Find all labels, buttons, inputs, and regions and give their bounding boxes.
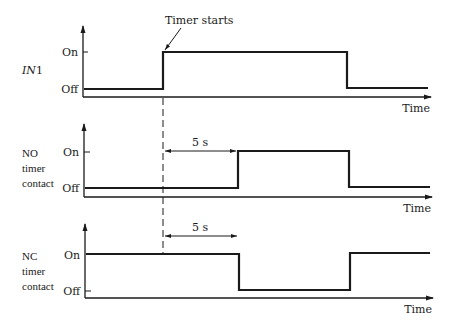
on-label: On (62, 46, 78, 59)
off-label: Off (61, 83, 79, 96)
panel-no-contact: On Off NO timer contact Time 5 s (22, 124, 432, 215)
panel-nc-contact: On Off NC timer contact Time 5 s (22, 221, 433, 316)
time-label: Time (404, 303, 432, 316)
signal-label-rest: 1 (36, 64, 43, 77)
waveform-in1 (84, 52, 428, 89)
timer-starts-label: Timer starts (165, 14, 234, 27)
timer-starts-arrow (165, 28, 181, 50)
waveform-no (85, 151, 430, 188)
signal-label-line: NO (22, 147, 38, 159)
panel-in1: On Off IN1 Time Timer starts (21, 14, 431, 115)
on-label: On (63, 146, 79, 159)
off-label: Off (62, 182, 80, 195)
signal-label-line: contact (22, 280, 54, 292)
waveform-nc (86, 253, 430, 290)
time-label: Time (402, 102, 430, 115)
on-label: On (64, 249, 80, 262)
delay-label: 5 s (192, 221, 208, 234)
signal-label-line: contact (22, 177, 54, 189)
signal-label-line: timer (22, 265, 46, 277)
signal-label-italic: IN (21, 64, 36, 77)
signal-label-line: timer (22, 162, 46, 174)
time-label: Time (403, 202, 431, 215)
timing-diagram: On Off IN1 Time Timer starts On Off NO t… (0, 0, 452, 325)
signal-label-line: NC (22, 250, 37, 262)
signal-label-no: NO timer contact (22, 147, 54, 189)
signal-label-in1: IN1 (21, 64, 43, 77)
signal-label-nc: NC timer contact (22, 250, 54, 292)
delay-label: 5 s (192, 136, 208, 149)
off-label: Off (63, 285, 81, 298)
